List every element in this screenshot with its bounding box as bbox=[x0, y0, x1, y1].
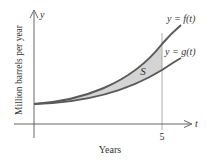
region-s-label: S bbox=[140, 65, 146, 77]
x-axis-label: Years bbox=[99, 144, 121, 155]
area-between-curves-diagram: y t 5 Years Million barrels per year y =… bbox=[0, 0, 210, 165]
y-axis-label: Million barrels per year bbox=[14, 24, 24, 115]
curve-g-label: y = g(t) bbox=[164, 46, 196, 58]
x-axis-variable-label: t bbox=[195, 118, 198, 129]
x-tick-5: 5 bbox=[160, 131, 165, 142]
curve-f-label: y = f(t) bbox=[166, 13, 196, 25]
y-axis-variable-label: y bbox=[39, 9, 45, 20]
